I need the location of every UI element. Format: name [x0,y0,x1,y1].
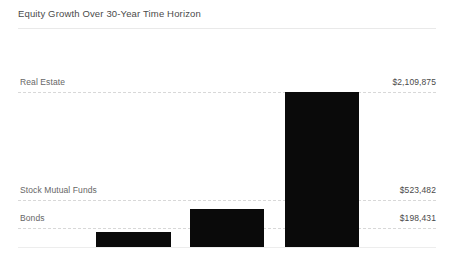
category-label-bonds: Bonds [20,213,45,223]
chart-container: Equity Growth Over 30-Year Time Horizon … [0,0,454,257]
value-label-bonds: $198,431 [400,213,436,223]
bar-stock-mutual-funds [190,209,264,247]
gridline-real-estate [18,92,436,93]
bar-real-estate [285,92,359,247]
gridline-stock-mutual-funds [18,200,436,201]
plot-area: Real Estate Stock Mutual Funds Bonds $2,… [0,0,454,257]
bar-bonds [96,232,171,247]
axis-baseline [18,247,436,248]
value-label-real-estate: $2,109,875 [392,77,436,87]
category-label-stock-mutual-funds: Stock Mutual Funds [20,185,97,195]
value-label-stock-mutual-funds: $523,482 [400,185,436,195]
category-label-real-estate: Real Estate [20,77,65,87]
